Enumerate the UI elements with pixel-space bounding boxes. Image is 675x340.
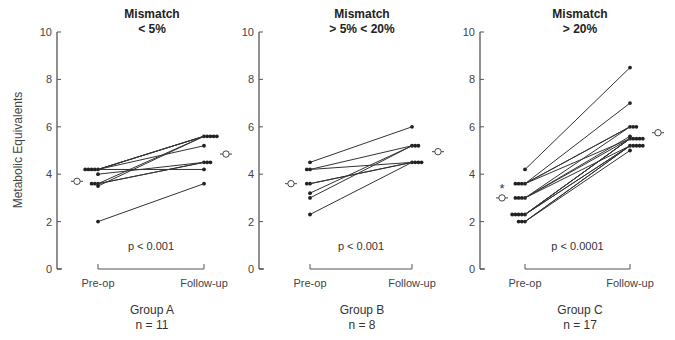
panel-b-y-tick-label: 0: [248, 263, 254, 275]
panel-b-preop-point: [308, 196, 312, 200]
panel-c-n-label: n = 17: [563, 318, 597, 332]
panel-a-preop-point: [83, 168, 87, 172]
panel-b-preop-point: [308, 160, 312, 164]
panel-a-x-label-preop: Pre-op: [81, 277, 114, 289]
panel-b-preop-point: [308, 191, 312, 195]
chart: Metabolic EquivalentsMismatch< 5%0246810…: [0, 0, 675, 340]
panel-b-followup-point: [410, 125, 414, 129]
panel-c-group-label: Group C: [557, 303, 603, 317]
panel-a-y-tick-label: 4: [46, 168, 52, 180]
panel-a-y-tick-label: 10: [40, 26, 52, 38]
panel-a-mean-followup-marker: [223, 151, 229, 157]
panel-b-y-tick-label: 6: [248, 121, 254, 133]
panel-a-group-label: Group A: [130, 303, 174, 317]
panel-a-followup-point: [215, 134, 219, 138]
panel-c-followup-point: [628, 101, 632, 105]
panel-c-followup-point: [628, 134, 632, 138]
panel-b-title-line1: Mismatch: [334, 7, 389, 21]
panel-b-preop-point: [308, 213, 312, 217]
panel-c-followup-point: [628, 149, 632, 153]
panel-c-preop-point: [523, 168, 527, 172]
panel-c-patient-line: [525, 68, 630, 170]
panel-c-patient-line: [525, 146, 630, 215]
panel-a-followup-point: [202, 168, 206, 172]
panel-c-preop-point: [514, 182, 518, 186]
panel-b-followup-point: [420, 160, 424, 164]
panel-c-patient-line: [525, 127, 630, 198]
panel-a-preop-point: [96, 184, 100, 188]
panel-c-title-line2: > 20%: [563, 22, 598, 36]
panel-c-bracket: [525, 264, 630, 269]
panel-b-group-label: Group B: [340, 303, 385, 317]
panel-c-title-line1: Mismatch: [552, 7, 607, 21]
panel-a-n-label: n = 11: [136, 318, 169, 332]
panel-a-title-line1: Mismatch: [124, 7, 179, 21]
panel-a-preop-point: [96, 220, 100, 224]
panel-a-y-tick-label: 8: [46, 73, 52, 85]
panel-c-significance-asterisk: *: [499, 181, 504, 196]
panel-b-n-label: n = 8: [348, 318, 375, 332]
panel-a-bracket: [98, 264, 204, 269]
panel-c-followup-point: [641, 144, 645, 148]
panel-a-p-value: p < 0.001: [128, 240, 174, 252]
panel-c-x-label-preop: Pre-op: [508, 277, 541, 289]
panel-a-preop-point: [96, 172, 100, 176]
panel-b-x-label-followup: Follow-up: [388, 277, 436, 289]
panel-a-patient-line: [98, 136, 204, 186]
panel-b-mean-preop-marker: [288, 180, 294, 186]
panel-c-patient-line: [525, 139, 630, 198]
panel-a-y-tick-label: 2: [46, 216, 52, 228]
panel-c-preop-point: [514, 196, 518, 200]
panel-b-followup-point: [417, 144, 421, 148]
panel-b-patient-line: [310, 127, 412, 163]
panel-a-followup-point: [209, 160, 213, 164]
panel-c-y-tick-label: 10: [463, 26, 475, 38]
panel-b-preop-point: [305, 182, 309, 186]
panel-c-preop-point: [510, 213, 514, 217]
panel-a-patient-line: [98, 184, 204, 222]
panel-c-y-tick-label: 4: [469, 168, 475, 180]
panel-a-title-line2: < 5%: [138, 22, 166, 36]
panel-a-x-label-followup: Follow-up: [180, 277, 228, 289]
panel-b-p-value: p < 0.001: [338, 240, 384, 252]
panel-b-mean-followup-marker: [435, 148, 441, 154]
panel-c-y-tick-label: 8: [469, 73, 475, 85]
panel-a-preop-point: [90, 182, 94, 186]
panel-a-followup-point: [202, 182, 206, 186]
panel-a-y-tick-label: 6: [46, 121, 52, 133]
panel-a-mean-preop-marker: [74, 178, 80, 184]
panel-c-y-tick-label: 0: [469, 263, 475, 275]
panel-c-followup-point: [628, 66, 632, 70]
panel-b-patient-line: [310, 146, 412, 193]
panel-b-y-tick-label: 4: [248, 168, 254, 180]
panel-b-y-tick-label: 8: [248, 73, 254, 85]
panel-c-y-tick-label: 2: [469, 216, 475, 228]
panel-c-mean-followup-marker: [655, 130, 661, 136]
panel-a-followup-point: [202, 144, 206, 148]
panel-c-y-tick-label: 6: [469, 121, 475, 133]
panel-b-y-tick-label: 2: [248, 216, 254, 228]
panel-b-x-label-preop: Pre-op: [293, 277, 326, 289]
panel-c-x-label-followup: Follow-up: [606, 277, 654, 289]
panel-c-patient-line: [525, 127, 630, 184]
y-axis-label: Metabolic Equivalents: [11, 92, 25, 209]
panel-b-y-tick-label: 10: [242, 26, 254, 38]
panel-c-p-value: p < 0.0001: [551, 240, 603, 252]
panel-c-followup-point: [635, 125, 639, 129]
panel-c-preop-point: [517, 220, 521, 224]
panel-c-patient-line: [525, 146, 630, 222]
panel-b-patient-line: [310, 146, 412, 198]
panel-b-title-line2: > 5% < 20%: [329, 22, 395, 36]
panel-b-preop-point: [305, 168, 309, 172]
panel-b-bracket: [310, 264, 412, 269]
panel-b-patient-line: [310, 162, 412, 214]
panel-a-y-tick-label: 0: [46, 263, 52, 275]
panel-c-followup-point: [641, 137, 645, 141]
